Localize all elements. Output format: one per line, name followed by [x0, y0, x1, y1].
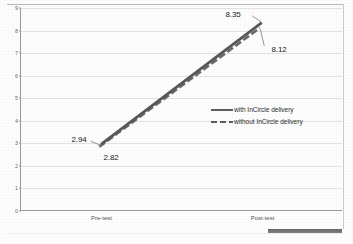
y-tick-label-6: 6: [15, 73, 18, 79]
legend-item-without-incircle[interactable]: without InCircle delivery: [211, 116, 331, 127]
x-tick-label-post-test: Post-test: [251, 215, 275, 221]
leader-line-8-12: [260, 29, 264, 46]
y-tick-label-8: 8: [15, 28, 18, 34]
y-tick-label-5: 5: [15, 95, 18, 101]
data-label-pre-without-incircle: 2.82: [104, 153, 119, 162]
scan-artifact-bar: [268, 229, 342, 233]
data-label-post-without-incircle: 8.12: [272, 45, 287, 54]
data-label-post-with-incircle: 8.35: [226, 10, 241, 19]
y-tick-label-4: 4: [15, 118, 18, 124]
leader-line-8-35: [252, 16, 261, 22]
leader-line-2-94: [91, 141, 101, 145]
y-tick-label-9: 9: [15, 5, 18, 11]
legend-label-with-incircle: with InCircle delivery: [234, 105, 294, 114]
chart-page: 9 8 7 6 5 4 3 2 1 0 Pre-test Post-test: [0, 0, 353, 244]
y-tick-label-0: 0: [15, 208, 18, 214]
legend-item-with-incircle[interactable]: with InCircle delivery: [211, 104, 331, 115]
y-tick-label-3: 3: [15, 140, 18, 146]
chart-legend: with InCircle delivery without InCircle …: [211, 104, 331, 128]
x-tick-label-pre-test: Pre-test: [91, 215, 112, 221]
y-tick-mark-0: [19, 210, 21, 211]
y-tick-label-2: 2: [15, 163, 18, 169]
solid-line-key-icon: [211, 105, 233, 114]
y-tick-label-7: 7: [15, 50, 18, 56]
data-label-pre-with-incircle: 2.94: [72, 135, 87, 144]
legend-label-without-incircle: without InCircle delivery: [234, 117, 303, 126]
page-bottom-hairline: [7, 233, 344, 234]
dashed-line-key-icon: [211, 117, 233, 126]
y-tick-label-1: 1: [15, 185, 18, 191]
